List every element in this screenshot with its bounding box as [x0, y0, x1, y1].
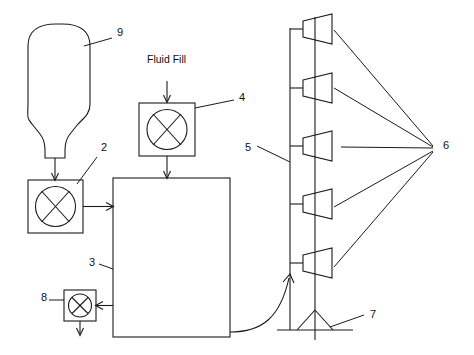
inlet-valve: [28, 180, 83, 233]
reference-numeral-3: 3: [89, 256, 95, 268]
reference-numeral-5: 5: [245, 141, 251, 153]
feed-pipe-curve: [230, 274, 294, 332]
flask-outlet-pipe: [52, 158, 59, 181]
fill-valve-to-main-pipe: [164, 156, 171, 179]
nozzle-4: [290, 189, 332, 219]
reference-numeral-6: 6: [443, 139, 449, 151]
leader-7: [330, 315, 364, 327]
reference-numeral-7: 7: [370, 308, 376, 320]
fluid-fill-inlet-arrow: [164, 81, 171, 103]
nozzle-5: [290, 248, 332, 278]
outlet-drain-arrow: [77, 321, 84, 336]
reference-numeral-9: 9: [117, 26, 123, 38]
inlet-valve-to-main-pipe: [83, 203, 114, 211]
main-unit: [113, 178, 230, 337]
leader-2: [77, 157, 97, 184]
leader-4: [195, 100, 234, 108]
schematic-diagram: Fluid Fill 9 4 2 3 8 5 6 7: [0, 0, 474, 355]
schematic-canvas: Fluid Fill 9 4 2 3 8 5 6 7: [0, 0, 474, 355]
leader-5: [257, 146, 290, 162]
main-to-outlet-pipe: [96, 302, 114, 310]
leader-9: [84, 38, 112, 46]
reference-numeral-8: 8: [41, 291, 47, 303]
outlet-valve: [64, 290, 96, 321]
leader-3: [99, 264, 113, 269]
fluid-fill-valve: [139, 103, 195, 156]
fluid-fill-caption: Fluid Fill: [147, 53, 186, 65]
reference-numeral-2: 2: [101, 141, 107, 153]
nozzle-3: [290, 131, 332, 161]
nozzle-2: [290, 73, 332, 103]
nozzle-1: [290, 14, 332, 44]
flask-vessel: [28, 24, 90, 158]
leader-6-group: [334, 30, 433, 267]
reference-numeral-4: 4: [239, 91, 245, 103]
